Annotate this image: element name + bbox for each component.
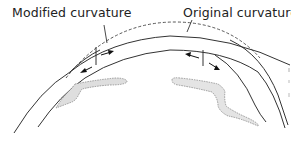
original-curvature-dashed-line	[66, 22, 260, 78]
right-iris-shading	[172, 78, 258, 126]
modified-label-leader	[104, 25, 107, 43]
modified-curvature-label: Modified curvature	[12, 5, 131, 20]
original-curvature-label: Original curvature	[183, 5, 291, 20]
diagram-canvas	[0, 0, 291, 148]
original-label-leader	[187, 20, 192, 32]
right-segment-arrow-right	[209, 63, 220, 70]
right-segment-arrow-left	[185, 52, 199, 58]
left-segment-arrow-left	[80, 67, 92, 73]
left-segment-arrow-right	[101, 50, 114, 55]
cornea-diagram: Modified curvature Original curvature	[0, 0, 291, 148]
